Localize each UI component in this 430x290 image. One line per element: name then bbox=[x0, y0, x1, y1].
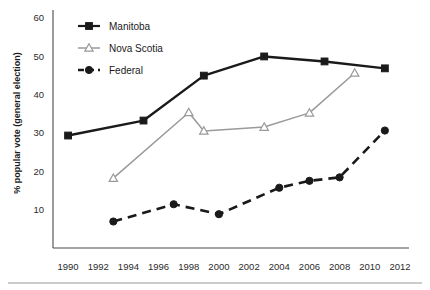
y-tick-label-50: 50 bbox=[33, 51, 44, 62]
series-line bbox=[113, 73, 354, 178]
data-point-federal-2004 bbox=[276, 184, 283, 191]
legend-swatch-marker bbox=[86, 23, 93, 30]
data-point-manitoba-1999 bbox=[200, 72, 207, 79]
data-point-nova-scotia-1998 bbox=[185, 108, 193, 115]
data-point-manitoba-1990 bbox=[65, 132, 72, 139]
y-axis-tick-group: 102030405060 bbox=[33, 12, 44, 215]
x-tick-label-2010: 2010 bbox=[359, 261, 380, 272]
data-point-federal-2008 bbox=[336, 174, 343, 181]
y-tick-label-30: 30 bbox=[33, 127, 44, 138]
data-point-federal-2011 bbox=[381, 127, 388, 134]
legend-item-nova-scotia[interactable]: Nova Scotia bbox=[78, 43, 163, 54]
legend-label: Nova Scotia bbox=[109, 43, 163, 54]
x-tick-label-1992: 1992 bbox=[88, 261, 109, 272]
data-point-manitoba-2011 bbox=[381, 65, 388, 72]
x-tick-label-2000: 2000 bbox=[208, 261, 229, 272]
x-tick-label-2012: 2012 bbox=[389, 261, 410, 272]
legend-label: Federal bbox=[109, 65, 143, 76]
y-tick-label-10: 10 bbox=[33, 204, 44, 215]
legend-swatch-marker bbox=[85, 66, 92, 73]
data-point-nova-scotia-2009 bbox=[350, 69, 358, 76]
y-tick-label-60: 60 bbox=[33, 12, 44, 23]
data-series-group bbox=[65, 53, 389, 225]
y-tick-label-20: 20 bbox=[33, 166, 44, 177]
x-tick-label-2004: 2004 bbox=[269, 261, 290, 272]
data-point-federal-2006 bbox=[306, 177, 313, 184]
data-point-manitoba-2003 bbox=[261, 53, 268, 60]
data-point-federal-1997 bbox=[170, 201, 177, 208]
data-point-manitoba-1995 bbox=[140, 117, 147, 124]
chart-container: 102030405060 199019921994199619982000200… bbox=[0, 0, 430, 290]
x-tick-label-2006: 2006 bbox=[299, 261, 320, 272]
x-tick-label-1994: 1994 bbox=[118, 261, 139, 272]
x-tick-label-1998: 1998 bbox=[178, 261, 199, 272]
legend-label: Manitoba bbox=[109, 21, 151, 32]
legend-item-manitoba[interactable]: Manitoba bbox=[78, 21, 151, 32]
data-point-manitoba-2007 bbox=[321, 58, 328, 65]
data-point-federal-1993 bbox=[110, 218, 117, 225]
x-tick-label-2008: 2008 bbox=[329, 261, 350, 272]
series-federal bbox=[110, 127, 389, 225]
x-axis-tick-group: 1990199219941996199820002002200420062008… bbox=[58, 261, 411, 272]
chart-legend: ManitobaNova ScotiaFederal bbox=[78, 21, 163, 76]
x-tick-label-1996: 1996 bbox=[148, 261, 169, 272]
x-tick-label-2002: 2002 bbox=[239, 261, 260, 272]
legend-item-federal[interactable]: Federal bbox=[78, 65, 143, 76]
x-tick-label-1990: 1990 bbox=[58, 261, 79, 272]
data-point-federal-2000 bbox=[215, 211, 222, 218]
y-axis-title: % popular vote (general election) bbox=[12, 52, 22, 194]
y-tick-label-40: 40 bbox=[33, 89, 44, 100]
line-chart-svg: 102030405060 199019921994199619982000200… bbox=[0, 0, 430, 290]
series-nova-scotia bbox=[109, 69, 359, 182]
series-line bbox=[113, 131, 385, 222]
